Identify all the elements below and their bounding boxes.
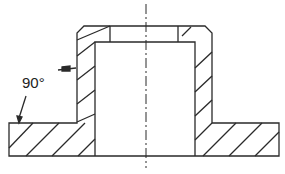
bore: [95, 42, 195, 156]
angle-label: 90°: [22, 74, 45, 91]
outer-profile: [9, 26, 279, 156]
leader-line: [19, 96, 26, 118]
